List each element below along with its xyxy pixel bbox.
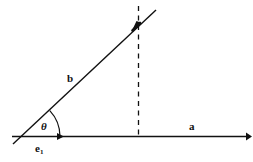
horizontal-axis-arrowhead [246, 133, 252, 141]
basis-vector-e1-label: e1 [35, 143, 43, 154]
vector-b-label: b [67, 73, 73, 84]
basis-vector-e1-subscript: 1 [40, 148, 44, 156]
horizontal-axis-arrow [12, 133, 252, 141]
vector-a-label: a [189, 121, 195, 132]
angle-theta-label: θ [41, 121, 47, 132]
vector-diagram-figure: b a θ e1 [0, 0, 253, 162]
angle-arc-path [50, 111, 60, 137]
vector-diagram-canvas [0, 0, 253, 162]
angle-arc [50, 111, 60, 137]
